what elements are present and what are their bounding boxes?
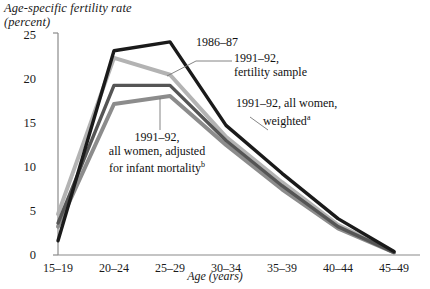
annotation-weighted-footnote: a: [307, 113, 311, 122]
fertility-rate-chart: Age-specific fertility rate(percent) 25 …: [0, 0, 430, 289]
annotation-fertility-sample-line2: fertility sample: [234, 65, 307, 79]
annotation-adjusted: 1991–92,all women, adjustedfor infant mo…: [62, 131, 252, 176]
annotation-adjusted-line1: 1991–92,: [135, 130, 180, 144]
annotation-1986-87-text: 1986–87: [196, 35, 238, 49]
annotation-weighted-line1: 1991–92, all women,: [236, 96, 337, 110]
annotation-adjusted-line2: all women, adjusted: [109, 144, 205, 158]
annotation-1986-87: 1986–87: [196, 36, 238, 50]
annotation-weighted-line2: weighted: [263, 114, 307, 128]
annotation-adjusted-line3: for infant mortality: [109, 161, 201, 175]
annotation-fertility-sample: 1991–92,fertility sample: [234, 52, 307, 79]
annotation-adjusted-footnote: b: [201, 160, 205, 169]
annotation-fertility-sample-line1: 1991–92,: [234, 51, 279, 65]
annotation-weighted: 1991–92, all women,weighteda: [236, 97, 337, 128]
